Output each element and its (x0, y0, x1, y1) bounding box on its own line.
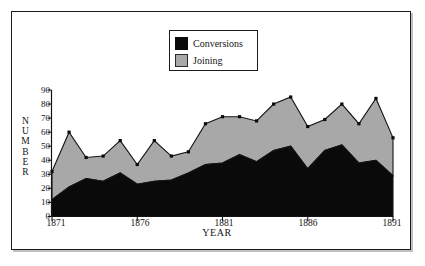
legend-item-joining: Joining (175, 52, 252, 68)
data-point-marker (340, 102, 343, 105)
data-point-marker (238, 115, 241, 118)
data-point-marker (221, 115, 224, 118)
legend: Conversions Joining (169, 30, 258, 71)
data-point-marker (374, 97, 377, 100)
data-point-marker (170, 154, 173, 157)
data-point-marker (102, 154, 105, 157)
data-point-marker (272, 102, 275, 105)
figure-frame: N U M B E R 90 80 70 60 50 40 30 20 10 0… (11, 11, 411, 250)
data-point-marker (306, 125, 309, 128)
data-point-marker (391, 136, 394, 139)
data-point-marker (255, 119, 258, 122)
legend-label-joining: Joining (193, 55, 222, 66)
data-point-marker (136, 163, 139, 166)
joining-swatch-icon (175, 54, 188, 67)
conversions-swatch-icon (175, 37, 188, 50)
data-point-marker (153, 139, 156, 142)
x-tick-marks (52, 217, 393, 222)
data-point-marker (357, 122, 360, 125)
data-point-marker (67, 131, 70, 134)
data-point-marker (204, 122, 207, 125)
data-point-marker (119, 139, 122, 142)
legend-item-conversions: Conversions (175, 35, 252, 51)
data-point-marker (289, 95, 292, 98)
data-point-marker (85, 156, 88, 159)
legend-label-conversions: Conversions (193, 38, 243, 49)
data-point-marker (187, 150, 190, 153)
data-point-marker (323, 118, 326, 121)
